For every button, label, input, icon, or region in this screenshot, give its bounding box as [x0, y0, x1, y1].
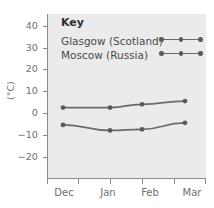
- legend-marker-icon: [198, 51, 203, 56]
- legend-label-glasgow: Glasgow (Scotland): [61, 35, 163, 47]
- y-tick-label-20: 20: [8, 64, 38, 74]
- x-tick-dec: [78, 179, 79, 184]
- temperature-line-chart: 40 30 20 10 0 −10 −20 Dec Jan Feb Mar (°…: [0, 0, 214, 208]
- x-tick-start: [47, 179, 48, 184]
- legend-marker-icon: [198, 37, 203, 42]
- legend-item-moscow[interactable]: Moscow (Russia): [61, 47, 203, 61]
- x-tick-label-feb: Feb: [130, 188, 170, 198]
- legend-line-sample-moscow: [159, 53, 203, 55]
- legend-marker-icon: [159, 51, 164, 56]
- y-tick-label-minus-10: −10: [8, 130, 38, 140]
- y-tick-label-minus-20: −20: [8, 152, 38, 162]
- legend-item-glasgow[interactable]: Glasgow (Scotland): [61, 33, 203, 47]
- y-tick-minus-20: [43, 157, 48, 158]
- x-tick-mar: [174, 179, 175, 184]
- x-tick-label-jan: Jan: [88, 188, 128, 198]
- legend-label-moscow: Moscow (Russia): [61, 49, 148, 61]
- y-tick-0: [43, 113, 48, 114]
- y-tick-10: [43, 91, 48, 92]
- legend: Key Glasgow (Scotland) Moscow (Russia): [61, 17, 203, 61]
- x-tick-end: [205, 179, 206, 184]
- legend-marker-icon: [179, 37, 184, 42]
- x-axis-line: [47, 178, 206, 179]
- x-tick-jan: [110, 179, 111, 184]
- y-axis-line: [47, 14, 48, 178]
- y-tick-40: [43, 26, 48, 27]
- y-tick-label-0: 0: [8, 108, 38, 118]
- legend-title: Key: [61, 17, 203, 30]
- y-tick-label-30: 30: [8, 43, 38, 53]
- y-tick-20: [43, 69, 48, 70]
- y-tick-label-40: 40: [8, 21, 38, 31]
- legend-marker-icon: [159, 37, 164, 42]
- legend-marker-icon: [179, 51, 184, 56]
- x-tick-feb: [142, 179, 143, 184]
- y-tick-30: [43, 48, 48, 49]
- x-tick-label-dec: Dec: [44, 188, 84, 198]
- y-tick-minus-10: [43, 135, 48, 136]
- legend-line-sample-glasgow: [159, 39, 203, 41]
- y-axis-title: (°C): [6, 81, 16, 100]
- x-tick-label-mar: Mar: [172, 188, 212, 198]
